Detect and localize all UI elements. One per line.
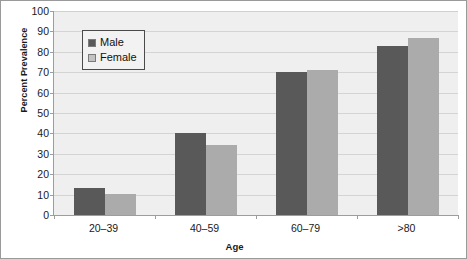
legend-label-female: Female — [100, 52, 137, 63]
legend-label-male: Male — [100, 37, 124, 48]
bar-female-1 — [206, 145, 237, 215]
x-tick-label: 60–79 — [255, 223, 356, 234]
bar-female-0 — [105, 194, 136, 215]
y-tick-mark — [50, 195, 54, 196]
x-tick-mark — [256, 215, 257, 219]
y-tick-mark — [50, 52, 54, 53]
x-tick-label: >80 — [356, 223, 457, 234]
bar-male-1 — [175, 133, 206, 215]
y-tick-mark — [50, 174, 54, 175]
bar-female-3 — [408, 38, 439, 215]
x-axis-title: Age — [1, 241, 467, 252]
bar-chart: Percent Prevalence 010203040506070809010… — [0, 0, 467, 259]
y-tick-mark — [50, 133, 54, 134]
y-tick-label: 80 — [23, 47, 49, 58]
female-swatch-icon — [88, 54, 96, 62]
male-swatch-icon — [88, 39, 96, 47]
x-tick-mark — [357, 215, 358, 219]
y-tick-label: 0 — [23, 210, 49, 221]
y-tick-label: 70 — [23, 67, 49, 78]
y-tick-mark — [50, 31, 54, 32]
x-tick-mark — [54, 215, 55, 219]
y-tick-mark — [50, 113, 54, 114]
bar-male-0 — [74, 188, 105, 215]
bar-female-2 — [307, 70, 338, 215]
y-tick-label: 30 — [23, 149, 49, 160]
y-tick-mark — [50, 93, 54, 94]
y-tick-label: 20 — [23, 169, 49, 180]
legend-entry-male: Male — [88, 35, 137, 50]
legend: Male Female — [82, 30, 145, 70]
y-tick-label: 50 — [23, 108, 49, 119]
x-tick-label: 40–59 — [154, 223, 255, 234]
x-tick-mark — [458, 215, 459, 219]
y-tick-mark — [50, 72, 54, 73]
y-tick-mark — [50, 11, 54, 12]
y-tick-label: 40 — [23, 128, 49, 139]
y-tick-label: 60 — [23, 87, 49, 98]
y-axis-tick-labels: 0102030405060708090100 — [19, 1, 49, 259]
gridline — [54, 11, 458, 12]
bar-male-2 — [276, 72, 307, 215]
x-tick-label: 20–39 — [53, 223, 154, 234]
legend-entry-female: Female — [88, 50, 137, 65]
x-tick-mark — [155, 215, 156, 219]
y-tick-label: 10 — [23, 189, 49, 200]
y-tick-label: 90 — [23, 26, 49, 37]
y-tick-label: 100 — [23, 6, 49, 17]
y-tick-mark — [50, 154, 54, 155]
bar-male-3 — [377, 46, 408, 215]
